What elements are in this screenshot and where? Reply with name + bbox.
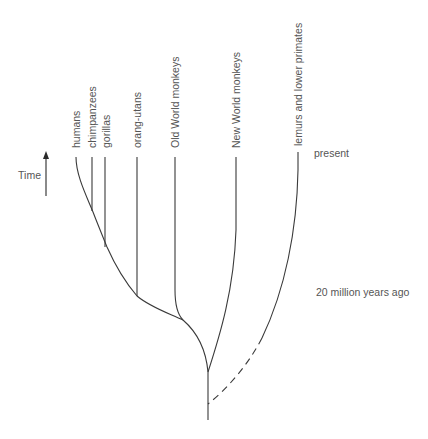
branch-catarrhine-stem — [183, 320, 208, 372]
time-axis: Time — [18, 151, 49, 196]
arrow-up-icon — [43, 151, 49, 159]
branch-old-world-monkeys — [175, 157, 183, 320]
label-chimpanzees: chimpanzees — [86, 86, 98, 148]
label-old-world-monkeys: Old World monkeys — [169, 57, 181, 148]
label-gorillas: gorillas — [100, 115, 112, 148]
label-lemurs: lemurs and lower primates — [292, 23, 304, 146]
branch-new-world-monkeys — [208, 157, 236, 372]
label-orang-utans: orang-utans — [131, 92, 143, 148]
present-marker: present — [314, 147, 349, 159]
branch-lemurs — [262, 152, 298, 338]
tree-branches — [76, 152, 298, 420]
label-new-world-monkeys: New World monkeys — [230, 52, 242, 148]
time-label: Time — [18, 169, 41, 181]
taxon-labels: humans chimpanzees gorillas orang-utans … — [70, 23, 304, 148]
label-humans: humans — [70, 111, 82, 148]
phylogeny-diagram: Time humans chimpanzees gorillas orang-u… — [0, 0, 428, 439]
past-marker: 20 million years ago — [316, 286, 410, 298]
